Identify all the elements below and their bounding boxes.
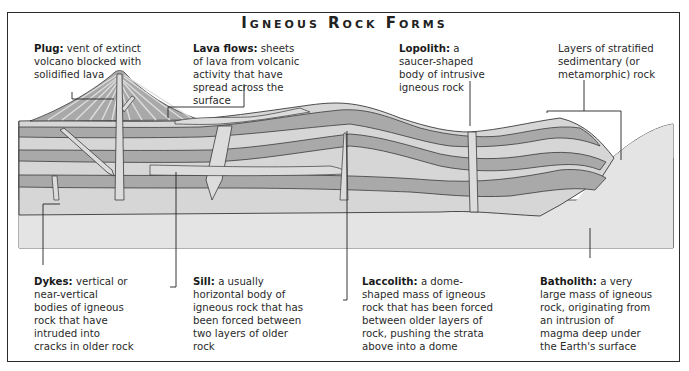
- batholith-desc: a very large mass of igneous rock, origi…: [540, 276, 652, 352]
- lopolith-term: Lopolith:: [399, 43, 450, 54]
- label-batholith: Batholith: a very large mass of igneous …: [540, 275, 655, 353]
- dykes-desc: vertical or near-vertical bodies of igne…: [34, 276, 134, 352]
- label-dykes: Dykes: vertical or near-vertical bodies …: [34, 275, 134, 353]
- label-sill: Sill: a usually horizontal body of igneo…: [193, 275, 308, 353]
- strata-desc: Layers of stratified sedimentary (or met…: [558, 43, 655, 80]
- sill-desc: a usually horizontal body of igneous roc…: [193, 276, 303, 352]
- laccolith-desc: a dome-shaped mass of igneous rock that …: [362, 276, 493, 352]
- lopolith-feeder: [468, 132, 478, 212]
- label-laccolith: Laccolith: a dome-shaped mass of igneous…: [362, 275, 497, 353]
- label-lava-flows: Lava flows: sheets of lava from volcanic…: [193, 42, 305, 107]
- dykes-term: Dykes:: [34, 276, 73, 287]
- label-plug: Plug: vent of extinct volcano blocked wi…: [34, 42, 154, 81]
- label-strata: Layers of stratified sedimentary (or met…: [558, 42, 668, 81]
- batholith-term: Batholith:: [540, 276, 597, 287]
- sill-term: Sill:: [193, 276, 215, 287]
- laccolith-term: Laccolith:: [362, 276, 418, 287]
- sill: [150, 165, 345, 176]
- plug-term: Plug:: [34, 43, 64, 54]
- lava-flows-term: Lava flows:: [193, 43, 258, 54]
- volcanic-plug: [115, 74, 124, 200]
- label-lopolith: Lopolith: a saucer-shaped body of intrus…: [399, 42, 499, 94]
